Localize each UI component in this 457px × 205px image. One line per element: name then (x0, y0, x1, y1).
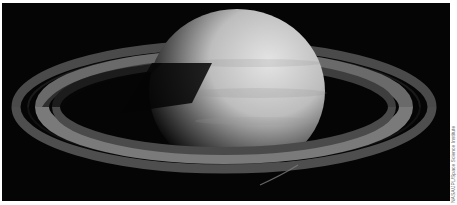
saturn-photo (2, 3, 450, 201)
credit-text: NASA/JPL/Space Science Institute (450, 126, 457, 203)
image-credit: NASA/JPL/Space Science Institute (450, 83, 457, 203)
saturn-illustration (2, 3, 450, 201)
